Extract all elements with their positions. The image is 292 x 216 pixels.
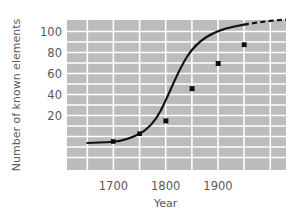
- x-tick-label-1700: 1700: [99, 179, 128, 193]
- elements-vs-year-line-chart: 100 80 60 40 20 1700 1800 1900 Year Numb…: [0, 0, 292, 216]
- y-tick-label-80: 80: [47, 46, 62, 60]
- y-tick-label-60: 60: [47, 67, 62, 81]
- data-point-1850: [190, 86, 195, 91]
- x-tick-label-1800: 1800: [151, 179, 180, 193]
- x-axis-title: Year: [153, 197, 178, 210]
- y-tick-label-100: 100: [40, 25, 62, 39]
- y-tick-label-20: 20: [47, 109, 62, 123]
- y-tick-label-40: 40: [47, 88, 62, 102]
- data-point-1800: [163, 118, 168, 123]
- chart-figure: 100 80 60 40 20 1700 1800 1900 Year Numb…: [0, 0, 292, 216]
- y-axis-title: Number of known elements: [10, 19, 23, 172]
- data-point-1750: [137, 131, 142, 136]
- data-point-1950: [242, 42, 247, 47]
- data-point-1700: [111, 139, 116, 144]
- x-tick-label-1900: 1900: [203, 179, 232, 193]
- data-point-1900: [216, 61, 221, 66]
